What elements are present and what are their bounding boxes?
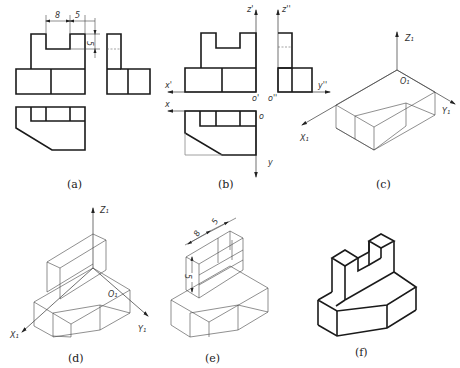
- label-iso-z-d: Z₁: [99, 206, 109, 215]
- caption-d: (d): [68, 352, 84, 365]
- panel-d: Z₁ X₁ Y₁ O₁ (d): [9, 206, 148, 365]
- caption-a: (a): [67, 178, 82, 191]
- label-x: x: [164, 100, 170, 109]
- label-iso-z: Z₁: [404, 34, 414, 43]
- label-iso-o: O₁: [400, 77, 410, 86]
- caption-f: (f): [355, 346, 368, 359]
- base-prism-c: [336, 70, 435, 150]
- panel-b: z' z'' x' x y'' y o' o'' o (b): [164, 5, 330, 191]
- upright-block-e: [186, 231, 243, 298]
- label-z-dprime: z'': [281, 5, 291, 14]
- dimensions-e: 8 5 5: [183, 217, 236, 292]
- label-z-prime: z': [246, 5, 253, 14]
- panel-f: (f): [318, 234, 416, 359]
- iso-x-axis-d: [22, 268, 93, 332]
- label-o: o: [259, 112, 264, 121]
- label-iso-x-d: X₁: [9, 331, 19, 340]
- dim-side-width-e: 5: [210, 217, 220, 226]
- label-iso-x: X₁: [299, 134, 309, 143]
- dim-side-width: 5: [75, 11, 80, 20]
- front-view-a: [16, 34, 85, 94]
- caption-c: (c): [376, 178, 391, 191]
- dim-notch-depth-e: 5: [183, 274, 192, 279]
- iso-y-axis-d: [93, 268, 148, 316]
- label-o-prime: o': [252, 94, 259, 103]
- figure-canvas: 8 5 5 (a): [0, 0, 460, 368]
- label-x-prime: x': [164, 81, 172, 90]
- label-y-dprime: y'': [317, 81, 327, 90]
- front-view-b: [185, 33, 256, 92]
- label-y: y: [267, 158, 273, 167]
- label-iso-o-d: O₁: [108, 290, 118, 299]
- panel-e: 8 5 5 (e): [171, 217, 268, 365]
- panel-c: Z₁ X₁ Y₁ O₁ (c): [299, 32, 455, 191]
- label-iso-y-d: Y₁: [138, 325, 146, 334]
- side-view-b: [278, 33, 312, 92]
- caption-e: (e): [205, 352, 220, 365]
- caption-b: (b): [218, 178, 234, 191]
- top-view-a: [16, 107, 85, 150]
- dim-notch-depth: 5: [85, 41, 94, 46]
- side-view-a: [107, 34, 150, 94]
- label-o-dprime: o'': [268, 94, 277, 103]
- dim-notch-width: 8: [55, 11, 60, 20]
- label-iso-y: Y₁: [442, 107, 450, 116]
- panel-a: 8 5 5 (a): [16, 11, 150, 191]
- top-view-b: [185, 111, 256, 155]
- finished-object-f: [318, 234, 416, 336]
